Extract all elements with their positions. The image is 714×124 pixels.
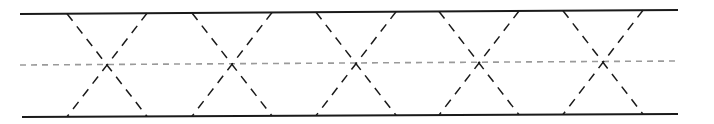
bottom-boundary-line (22, 114, 678, 117)
top-boundary-line (20, 10, 678, 14)
truss-diagram (0, 0, 714, 124)
dashed-centerline (20, 61, 678, 65)
